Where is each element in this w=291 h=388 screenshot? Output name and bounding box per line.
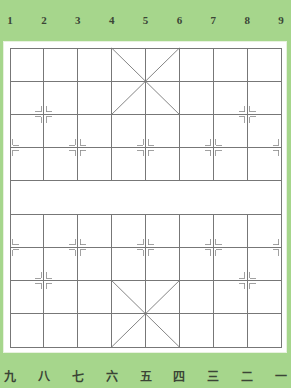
position-mark: [137, 239, 143, 245]
position-mark: [205, 250, 211, 256]
column-label-wu: 五: [140, 370, 152, 384]
column-label-6: 6: [177, 13, 183, 27]
position-mark: [273, 139, 279, 145]
position-mark: [46, 106, 52, 112]
position-mark: [250, 272, 256, 278]
position-mark: [46, 283, 52, 289]
column-label-3: 3: [75, 13, 81, 27]
position-mark: [69, 250, 75, 256]
position-mark: [137, 250, 143, 256]
position-mark: [137, 139, 143, 145]
position-mark: [239, 272, 245, 278]
position-mark: [239, 283, 245, 289]
position-mark: [69, 139, 75, 145]
column-label-er: 二: [241, 370, 253, 384]
column-label-qi: 七: [72, 370, 84, 384]
position-mark: [35, 272, 41, 278]
position-mark: [46, 272, 52, 278]
position-mark: [80, 139, 86, 145]
position-mark: [35, 283, 41, 289]
position-mark: [205, 139, 211, 145]
column-label-8: 8: [244, 13, 250, 27]
position-mark: [80, 239, 86, 245]
position-mark: [137, 150, 143, 156]
position-mark: [216, 150, 222, 156]
position-mark: [250, 283, 256, 289]
position-mark: [273, 239, 279, 245]
position-mark: [69, 239, 75, 245]
column-label-jiu: 九: [4, 370, 16, 384]
position-mark: [239, 106, 245, 112]
position-mark: [13, 139, 19, 145]
position-mark: [148, 150, 154, 156]
position-mark: [239, 117, 245, 123]
position-mark: [69, 150, 75, 156]
position-mark: [273, 250, 279, 256]
position-mark: [148, 250, 154, 256]
position-mark: [216, 250, 222, 256]
position-mark: [273, 150, 279, 156]
position-mark: [13, 150, 19, 156]
position-mark: [80, 150, 86, 156]
column-label-4: 4: [109, 13, 115, 27]
position-mark: [35, 106, 41, 112]
position-mark: [250, 117, 256, 123]
position-mark: [13, 239, 19, 245]
position-mark: [216, 139, 222, 145]
column-label-5: 5: [143, 13, 149, 27]
column-label-san: 三: [207, 370, 219, 384]
column-label-yi: 一: [275, 370, 287, 384]
column-label-7: 7: [211, 13, 217, 27]
position-mark: [250, 106, 256, 112]
position-mark: [13, 250, 19, 256]
position-mark: [80, 250, 86, 256]
column-label-2: 2: [41, 13, 47, 27]
position-mark: [205, 150, 211, 156]
board-grid[interactable]: [0, 0, 291, 388]
position-mark: [148, 139, 154, 145]
column-label-si: 四: [173, 370, 185, 384]
position-mark: [216, 239, 222, 245]
position-mark: [148, 239, 154, 245]
position-mark: [46, 117, 52, 123]
column-label-ba: 八: [38, 370, 50, 384]
column-label-1: 1: [7, 13, 13, 27]
position-mark: [205, 239, 211, 245]
column-label-liu: 六: [106, 370, 118, 384]
position-mark: [35, 117, 41, 123]
column-label-9: 9: [278, 13, 284, 27]
